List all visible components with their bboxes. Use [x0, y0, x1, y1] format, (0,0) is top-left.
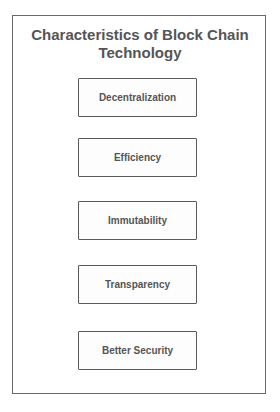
characteristic-label: Better Security — [102, 345, 173, 356]
characteristic-box-better-security: Better Security — [78, 331, 197, 370]
characteristic-box-decentralization: Decentralization — [78, 78, 197, 117]
characteristic-label: Efficiency — [114, 152, 161, 163]
characteristic-box-immutability: Immutability — [78, 201, 197, 240]
characteristic-label: Decentralization — [99, 92, 176, 103]
characteristic-label: Transparency — [105, 279, 170, 290]
diagram-title: Characteristics of Block Chain Technolog… — [13, 26, 267, 62]
characteristic-label: Immutability — [108, 215, 167, 226]
characteristic-box-efficiency: Efficiency — [78, 138, 197, 177]
characteristic-box-transparency: Transparency — [78, 265, 197, 304]
diagram-frame: Characteristics of Block Chain Technolog… — [12, 15, 266, 394]
